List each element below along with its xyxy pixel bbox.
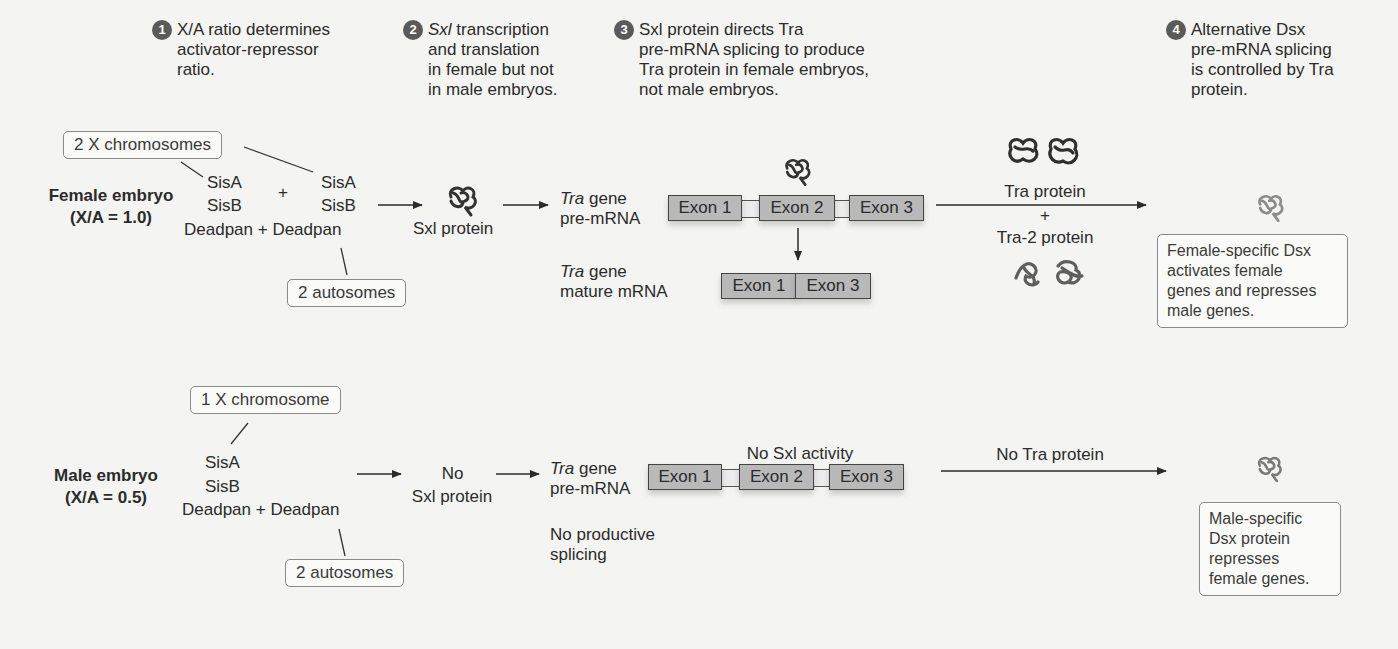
tra-protein-label: Tra protein [980, 182, 1110, 202]
plus-sign: + [980, 206, 1110, 226]
sxl-protein-label: Sxl protein [402, 487, 502, 507]
sxl-protein-icon [780, 155, 816, 189]
no-tra-protein-label: No Tra protein [960, 445, 1140, 465]
deadpan-line: Deadpan + Deadpan [184, 220, 341, 240]
outcome-line: Male-specific [1209, 509, 1331, 529]
no-label: No [405, 464, 500, 484]
step-2-line: in male embryos. [428, 80, 557, 100]
tra-italic: Tra [560, 189, 584, 208]
autosomes-box: 2 autosomes [287, 279, 406, 307]
female-outcome-box: Female-specific Dsx activates female gen… [1157, 234, 1348, 328]
step-3-line: Tra protein in female embryos, [639, 60, 869, 80]
step-3-line: not male embryos. [639, 80, 869, 100]
female-embryo-title: Female embryo [26, 186, 196, 206]
x-chromosomes-box: 2 X chromosomes [63, 131, 222, 159]
exon-3: Exon 3 [829, 464, 904, 490]
step-3-line: pre-mRNA splicing to produce [639, 40, 869, 60]
mature-mrna-text: mature mRNA [560, 282, 668, 301]
mature-exon-3: Exon 3 [795, 273, 871, 299]
outcome-line: male genes. [1167, 301, 1338, 321]
exon-1: Exon 1 [668, 195, 742, 221]
dsx-protein-icon [1253, 453, 1287, 485]
plus-sign: + [278, 183, 288, 203]
male-outcome-box: Male-specific Dsx protein represses fema… [1199, 502, 1341, 596]
step-2-line: and translation [428, 40, 557, 60]
tra-protein-icon [1005, 135, 1085, 171]
male-xa-ratio: (X/A = 0.5) [26, 488, 186, 508]
step-number-badge: 4 [1166, 20, 1186, 40]
step-1-line: activator-repressor [177, 40, 330, 60]
step-4-line: pre-mRNA splicing [1191, 40, 1334, 60]
female-xa-ratio: (X/A = 1.0) [26, 208, 196, 228]
tra-pre-mrna-label: Tra gene pre-mRNA [560, 189, 640, 229]
tra-mature-mrna-label: Tra gene mature mRNA [560, 262, 668, 302]
tra2-protein-label: Tra-2 protein [970, 228, 1120, 248]
tra-gene-text: gene [574, 459, 617, 478]
exon-2: Exon 2 [759, 195, 835, 221]
step-4-line: protein. [1191, 80, 1334, 100]
no-sxl-activity-label: No Sxl activity [690, 444, 910, 464]
sisb-right: SisB [321, 196, 356, 216]
outcome-line: female genes. [1209, 569, 1331, 589]
sxl-gene-italic: Sxl [428, 20, 452, 39]
outcome-line: Dsx protein [1209, 529, 1331, 549]
tra-italic: Tra [560, 262, 584, 281]
exon-2: Exon 2 [739, 464, 814, 490]
step-number-badge: 2 [403, 20, 423, 40]
intron [720, 469, 740, 487]
pre-mrna-text: pre-mRNA [550, 479, 630, 498]
sxl-protein-label: Sxl protein [413, 219, 493, 239]
deadpan-line: Deadpan + Deadpan [182, 500, 339, 520]
sxl-protein-icon [443, 183, 483, 219]
tra-gene-text: gene [584, 262, 627, 281]
step-3-line: Sxl protein directs Tra [639, 20, 869, 40]
pre-mrna-text: pre-mRNA [560, 209, 640, 228]
autosomes-box: 2 autosomes [285, 559, 404, 587]
exon-1: Exon 1 [648, 464, 722, 490]
sisa-right: SisA [321, 173, 356, 193]
step-2-line: transcription [452, 20, 549, 39]
dsx-protein-icon [1253, 191, 1289, 225]
intron [833, 200, 850, 218]
tra-gene-text: gene [584, 189, 627, 208]
x-chromosome-box: 1 X chromosome [190, 386, 341, 414]
tra2-protein-icon [1012, 256, 1092, 292]
step-number-badge: 3 [614, 20, 634, 40]
intron [812, 469, 830, 487]
outcome-line: Female-specific Dsx [1167, 241, 1338, 261]
sisb-left: SisB [207, 196, 242, 216]
no-productive-splicing: No productive splicing [550, 525, 655, 565]
sisa-left: SisA [207, 173, 242, 193]
no-splicing-line: No productive [550, 525, 655, 544]
sisa: SisA [205, 453, 240, 473]
outcome-line: genes and represses [1167, 281, 1338, 301]
step-2-line: in female but not [428, 60, 557, 80]
step-1-line: X/A ratio determines [177, 20, 330, 40]
sisb: SisB [205, 477, 240, 497]
step-1-line: ratio. [177, 60, 330, 80]
male-embryo-title: Male embryo [26, 466, 186, 486]
step-4-line: Alternative Dsx [1191, 20, 1334, 40]
step-4-line: is controlled by Tra [1191, 60, 1334, 80]
step-number-badge: 1 [152, 20, 172, 40]
tra-pre-mrna-label: Tra gene pre-mRNA [550, 459, 630, 499]
mature-exon-1: Exon 1 [721, 273, 797, 299]
outcome-line: represses [1209, 549, 1331, 569]
no-splicing-line: splicing [550, 545, 607, 564]
tra-italic: Tra [550, 459, 574, 478]
intron [740, 200, 760, 218]
exon-3: Exon 3 [849, 195, 924, 221]
outcome-line: activates female [1167, 261, 1338, 281]
